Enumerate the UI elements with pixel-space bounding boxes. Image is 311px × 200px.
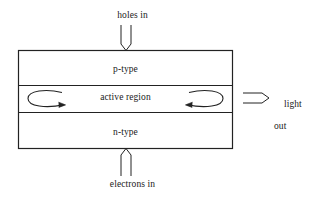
label-electrons-in: electrons in xyxy=(0,179,265,190)
layer-label-active-region: active region xyxy=(18,92,233,103)
layer-label-n-type: n-type xyxy=(18,127,233,138)
light-out-arrow xyxy=(243,93,269,103)
label-light-out-line1: light xyxy=(284,99,302,109)
diagram-canvas: holes in p-type active region n-type ele… xyxy=(0,0,311,200)
label-holes-in: holes in xyxy=(0,10,265,21)
layer-label-p-type: p-type xyxy=(18,64,233,75)
label-light-out: light out xyxy=(274,88,310,154)
holes-in-arrow xyxy=(121,25,131,51)
label-light-out-line2: out xyxy=(274,121,310,132)
electrons-in-arrow xyxy=(121,149,131,177)
